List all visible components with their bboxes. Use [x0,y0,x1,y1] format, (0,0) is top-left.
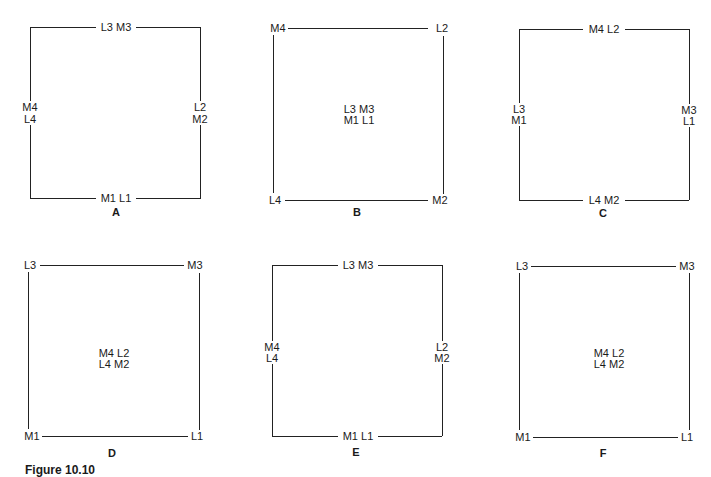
label-right-1: L2 [190,101,210,113]
panel-letter: A [112,206,120,218]
label-left-2: M1 [509,114,529,126]
label-top: L3 M3 [338,259,378,271]
edge-bottom [285,200,428,201]
caption-label: Figure 10.10 [25,463,95,477]
label-center-2: L4 M2 [587,358,631,370]
label-bottom: M1 L1 [338,430,378,442]
label-left-2: L4 [262,352,282,364]
label-bottom: M1 L1 [96,192,136,204]
edge-top [531,266,676,267]
label-bottom-left: M1 [513,431,533,443]
label-right-2: M2 [190,113,210,125]
label-center-2: M1 L1 [337,114,381,126]
edge-left [28,272,29,429]
edge-right [443,36,444,194]
label-top-left: L3 [513,260,531,272]
label-top-left: L3 [21,259,39,271]
panel-letter: C [599,207,607,219]
figure-caption: Figure 10.10 [25,463,95,477]
label-left-1: M4 [20,101,40,113]
edge-top [288,28,428,29]
edge-left [519,273,520,430]
edge-bottom [40,436,188,437]
label-top-left: M4 [268,22,288,34]
label-bottom-right: L1 [678,431,696,443]
label-right-2: M2 [432,352,452,364]
label-left-2: L4 [20,113,40,125]
label-top: M4 L2 [583,23,625,35]
edge-left [273,35,274,193]
label-top: L3 M3 [96,21,136,33]
panel-letter: F [600,447,607,459]
panel-letter: D [108,447,116,459]
label-bottom-right: M2 [429,194,451,206]
label-bottom-left: L4 [265,194,285,206]
label-bottom-right: L1 [188,430,206,442]
edge-right [199,273,200,430]
label-top-right: M3 [676,260,698,272]
label-top-right: M3 [184,259,206,271]
label-bottom: L4 M2 [583,194,625,206]
panel-letter: E [352,446,359,458]
edge-top [40,265,185,266]
edge-right [689,273,690,430]
panel-letter: B [353,206,361,218]
edge-bottom [533,437,678,438]
label-right-2: L1 [679,115,699,127]
label-center-2: L4 M2 [92,358,136,370]
label-bottom-left: M1 [22,430,42,442]
label-top-right: L2 [432,22,452,34]
